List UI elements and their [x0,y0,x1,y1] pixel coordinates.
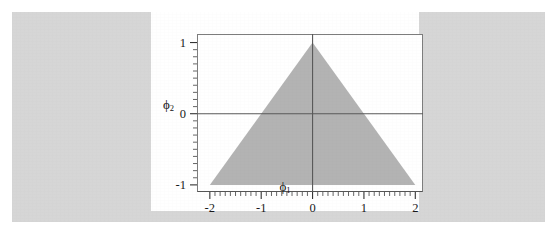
y-axis-title: ϕ2 [163,98,174,113]
x-axis-title-subscript: 1 [286,185,290,195]
x-tick-label: 0 [309,202,315,215]
y-axis-title-subscript: 2 [170,103,174,113]
figure-panel: -2-1012 -101 ϕ1 ϕ2 [12,12,545,222]
x-tick-label: 2 [412,202,418,215]
chart-axes-area: -2-1012 -101 [197,34,423,192]
x-tick-label: -1 [256,202,266,215]
y-tick-label: 1 [166,36,186,49]
x-tick-label: -2 [205,202,215,215]
plot-card: -2-1012 -101 ϕ1 ϕ2 [151,8,419,211]
x-axis-title: ϕ1 [151,180,419,195]
y-axis-title-symbol: ϕ [163,97,170,112]
x-tick-label: 1 [361,202,367,215]
